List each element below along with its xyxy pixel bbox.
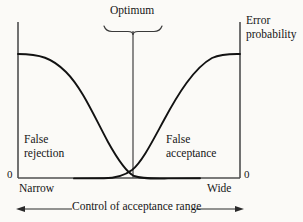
y-axis-label-line2: probability bbox=[246, 28, 296, 42]
optimum-brace-icon bbox=[104, 26, 162, 35]
optimum-label: Optimum bbox=[110, 4, 154, 18]
false-rejection-label-line1: False bbox=[24, 133, 48, 145]
y-axis-zero-right: 0 bbox=[244, 168, 250, 181]
false-acceptance-label: False acceptance bbox=[166, 133, 216, 160]
y-axis-label: Error probability bbox=[246, 14, 296, 41]
x-axis-title: Control of acceptance range bbox=[72, 200, 201, 214]
false-rejection-label: False rejection bbox=[24, 133, 64, 160]
y-axis-zero-left: 0 bbox=[7, 168, 13, 181]
false-acceptance-label-line1: False bbox=[166, 133, 190, 145]
x-tick-narrow: Narrow bbox=[19, 182, 54, 196]
arrow-right-icon bbox=[235, 206, 244, 212]
false-rejection-label-line2: rejection bbox=[24, 147, 64, 161]
error-probability-figure: Optimum Error probability 0 0 Narrow Wid… bbox=[0, 0, 303, 222]
y-axis-label-line1: Error bbox=[246, 14, 270, 26]
arrow-left-icon bbox=[16, 206, 25, 212]
false-acceptance-label-line2: acceptance bbox=[166, 147, 216, 161]
x-tick-wide: Wide bbox=[207, 182, 231, 196]
